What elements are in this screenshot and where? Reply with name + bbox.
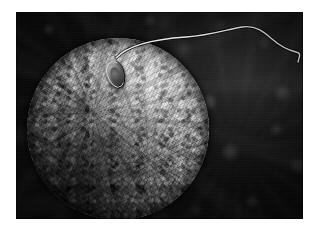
micrograph-photo — [16, 12, 303, 219]
sperm-midpiece — [109, 55, 115, 65]
screenshot-root — [0, 0, 315, 228]
